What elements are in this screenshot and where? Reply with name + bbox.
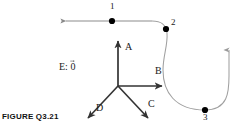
trajectory-path [66,21,229,110]
vector-label-e-prefix: E: [59,61,68,72]
figure-graphics [0,0,244,127]
vector-label-a: A [125,42,132,52]
figure-container: 1 2 3 A B C D E: 0 FIGURE Q3.21 [0,0,244,127]
vector-arrow-d [88,86,118,118]
trajectory-dot-1 [109,18,115,24]
vector-arrow-overbar-icon [70,59,75,63]
trajectory-label-2: 2 [171,18,176,27]
vector-label-d: D [96,103,103,113]
vector-label-c: C [148,99,155,109]
zero-vector-glyph: 0 [70,60,75,72]
trajectory-label-3: 3 [203,113,208,122]
vector-label-e-zero: E: 0 [59,60,75,72]
trajectory-label-1: 1 [110,2,115,11]
figure-caption: FIGURE Q3.21 [2,112,59,121]
trajectory-dot-2 [163,26,169,32]
vector-label-b: B [155,66,162,76]
vector-arrow-c [118,86,148,118]
